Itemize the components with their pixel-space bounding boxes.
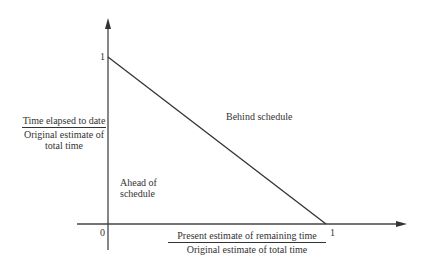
region-label-ahead-line1: Ahead of xyxy=(120,177,157,188)
x-tick-1: 1 xyxy=(330,227,335,238)
y-axis-label-denominator-1: Original estimate of xyxy=(22,128,106,140)
x-axis-label-numerator: Present estimate of remaining time xyxy=(168,230,326,243)
origin-label: 0 xyxy=(100,227,105,238)
x-axis-label: Present estimate of remaining time Origi… xyxy=(168,230,326,255)
x-axis-arrow-icon xyxy=(396,221,407,227)
y-axis-arrow-icon xyxy=(105,18,111,29)
y-axis-label-denominator-2: total time xyxy=(22,140,106,151)
x-axis-label-denominator: Original estimate of total time xyxy=(168,243,326,255)
region-label-behind: Behind schedule xyxy=(226,111,292,122)
y-axis-label: Time elapsed to date Original estimate o… xyxy=(22,115,106,151)
y-axis-label-numerator: Time elapsed to date xyxy=(22,115,106,128)
region-label-ahead-line2: schedule xyxy=(120,188,157,199)
region-label-ahead: Ahead of schedule xyxy=(120,177,157,199)
y-tick-1: 1 xyxy=(100,51,105,62)
